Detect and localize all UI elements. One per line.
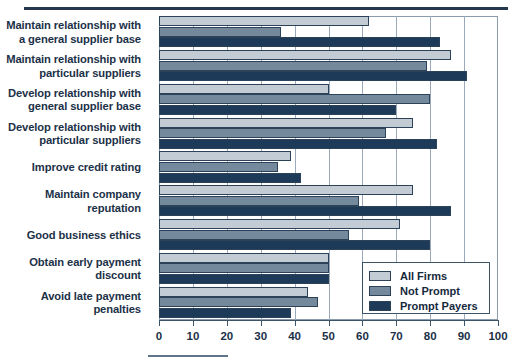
category-label-line: discount [29, 269, 141, 283]
legend-swatch [369, 286, 391, 296]
bar [159, 274, 329, 284]
category-label-line: Maintain company [45, 188, 141, 202]
bar [159, 50, 451, 60]
bar-group [159, 118, 498, 149]
chart-figure: Maintain relationship witha general supp… [0, 0, 516, 364]
bar [159, 173, 301, 183]
chart-legend: All FirmsNot PromptPrompt Payers [362, 262, 490, 314]
legend-swatch [369, 271, 391, 281]
category-label: Maintain companyreputation [45, 188, 141, 215]
bar [159, 71, 467, 81]
x-axis-tick [329, 320, 330, 326]
bar [159, 219, 400, 229]
bar [159, 105, 396, 115]
x-axis-tick [159, 320, 160, 326]
bar [159, 94, 430, 104]
category-label-line: general supplier base [8, 100, 141, 114]
legend-swatch [369, 301, 391, 311]
category-label-line: Maintain relationship with [6, 19, 141, 33]
category-label-line: reputation [45, 202, 141, 216]
bar [159, 230, 349, 240]
category-label-line: penalties [41, 303, 141, 317]
category-label-line: a general supplier base [6, 33, 141, 47]
bottom-divider-rule [148, 355, 228, 357]
legend-item: All Firms [369, 268, 447, 283]
category-label: Improve credit rating [32, 161, 141, 175]
category-axis-labels: Maintain relationship witha general supp… [0, 16, 150, 320]
legend-label: Prompt Payers [400, 300, 478, 312]
category-label: Maintain relationship withparticular sup… [6, 53, 141, 80]
category-label-line: particular suppliers [8, 134, 141, 148]
bar-group [159, 185, 498, 216]
bar [159, 297, 318, 307]
x-axis-tick [295, 320, 296, 326]
category-label: Develop relationship withparticular supp… [8, 121, 141, 148]
bar [159, 162, 278, 172]
x-axis-tick [362, 320, 363, 326]
legend-item: Prompt Payers [369, 298, 478, 313]
bar-group [159, 219, 498, 250]
bar-group [159, 16, 498, 47]
category-label-line: Improve credit rating [32, 161, 141, 175]
legend-label: All Firms [400, 270, 447, 282]
bar [159, 206, 451, 216]
legend-item: Not Prompt [369, 283, 460, 298]
category-label-line: Maintain relationship with [6, 53, 141, 67]
bar [159, 37, 440, 47]
bar-group [159, 151, 498, 182]
bar [159, 118, 413, 128]
bar-group [159, 50, 498, 81]
bar [159, 253, 329, 263]
bar [159, 263, 329, 273]
bar-group [159, 84, 498, 115]
category-label-line: Develop relationship with [8, 121, 141, 135]
bar [159, 196, 359, 206]
bar [159, 16, 369, 26]
x-axis-tick-label: 100 [478, 330, 516, 342]
x-axis-tick [261, 320, 262, 326]
category-label-line: Obtain early payment [29, 256, 141, 270]
category-label: Maintain relationship witha general supp… [6, 19, 141, 46]
x-axis-tick [193, 320, 194, 326]
category-label: Obtain early paymentdiscount [29, 256, 141, 283]
legend-label: Not Prompt [400, 285, 460, 297]
x-axis-tick [464, 320, 465, 326]
category-label-line: particular suppliers [6, 67, 141, 81]
x-axis-tick [396, 320, 397, 326]
category-label: Good business ethics [27, 229, 141, 243]
bar [159, 84, 329, 94]
category-label-line: Avoid late payment [41, 290, 141, 304]
x-axis-tick [227, 320, 228, 326]
bar [159, 185, 413, 195]
category-label-line: Develop relationship with [8, 87, 141, 101]
bar [159, 27, 281, 37]
bar [159, 287, 308, 297]
category-label-line: Good business ethics [27, 229, 141, 243]
bar [159, 240, 430, 250]
bar [159, 308, 291, 318]
x-axis-tick [430, 320, 431, 326]
bar [159, 139, 437, 149]
bar [159, 128, 386, 138]
x-axis-tick [498, 320, 499, 326]
x-axis [159, 320, 498, 328]
bar [159, 61, 427, 71]
bar [159, 151, 291, 161]
category-label: Develop relationship withgeneral supplie… [8, 87, 141, 114]
top-divider-rule [24, 7, 508, 10]
category-label: Avoid late paymentpenalties [41, 290, 141, 317]
